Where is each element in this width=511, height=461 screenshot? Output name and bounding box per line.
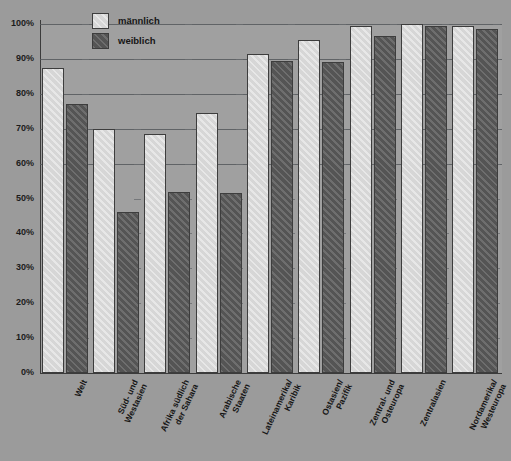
bar-male — [452, 26, 474, 373]
x-axis-tick-label: ArabischeStaaten — [217, 378, 252, 424]
legend-label-male: männlich — [118, 15, 160, 26]
gridline-tick — [339, 59, 346, 60]
bar-male — [247, 54, 269, 373]
gridline-tick — [236, 129, 243, 130]
bar-female — [117, 212, 139, 373]
x-axis-tick-label: Zentralasien — [418, 378, 448, 428]
y-axis-tick-label: 70% — [0, 124, 34, 133]
legend-swatch-male-icon — [92, 13, 109, 29]
bar-male — [93, 129, 115, 373]
x-axis-tick-label: Ostasien/Pazifik — [320, 378, 354, 421]
bar-female — [322, 62, 344, 373]
gridline-tick — [339, 24, 346, 25]
bar-female — [168, 192, 190, 373]
gridline-tick — [236, 94, 243, 95]
y-axis-tick-label: 80% — [0, 89, 34, 98]
y-axis-tick-label: 0% — [0, 368, 34, 377]
y-axis-tick-label: 100% — [0, 19, 34, 28]
gridline-tick — [134, 59, 141, 60]
y-axis-tick-label: 90% — [0, 54, 34, 63]
gridline-tick — [134, 94, 141, 95]
bar-female — [476, 29, 498, 373]
gridline-tick — [185, 59, 192, 60]
x-axis-tick-label: Afrika südlichder Sahara — [158, 378, 200, 437]
gridline-tick — [288, 24, 295, 25]
bar-female — [220, 193, 242, 373]
gridline-tick — [236, 164, 243, 165]
y-axis-tick-label: 30% — [0, 263, 34, 272]
x-axis-tick-label: Süd- undWestasien — [113, 378, 149, 424]
gridline — [40, 24, 502, 25]
bar-male — [42, 68, 64, 373]
bar-female — [271, 61, 293, 373]
gridline-tick — [236, 24, 243, 25]
bar-female — [66, 104, 88, 373]
x-axis-tick-label: Lateinamerika/Karibik — [260, 378, 303, 440]
bar-male — [401, 24, 423, 373]
legend-label-female: weiblich — [118, 35, 155, 46]
y-axis-tick-label: 10% — [0, 333, 34, 342]
gridline-tick — [82, 59, 89, 60]
gridline-tick — [442, 24, 449, 25]
y-axis-tick-label: 50% — [0, 194, 34, 203]
bar-chart: 100%90%80%70%60%50%40%30%20%10%0% männli… — [0, 0, 511, 461]
gridline-tick — [390, 24, 397, 25]
x-axis-tick-label-line: Zentralasien — [418, 378, 448, 428]
x-axis-tick-label: Welt — [72, 378, 89, 398]
gridline-tick — [185, 129, 192, 130]
x-axis-tick-label-line: Welt — [72, 378, 89, 398]
gridline-tick — [185, 24, 192, 25]
legend-swatch-female-icon — [92, 33, 109, 49]
bar-female — [425, 26, 447, 373]
gridline-tick — [493, 24, 500, 25]
gridline-tick — [82, 94, 89, 95]
bar-male — [298, 40, 320, 373]
gridline-tick — [185, 94, 192, 95]
bar-male — [196, 113, 218, 373]
x-axis-line — [40, 373, 502, 374]
gridline-tick — [288, 59, 295, 60]
y-axis-tick-label: 60% — [0, 159, 34, 168]
bar-male — [350, 26, 372, 373]
gridline-tick — [82, 24, 89, 25]
y-axis-tick-label: 20% — [0, 298, 34, 307]
y-axis-tick-label: 40% — [0, 228, 34, 237]
x-axis-tick-label: Nordamerika/Westeuropa — [467, 378, 508, 436]
gridline-tick — [134, 199, 141, 200]
gridline-tick — [134, 129, 141, 130]
x-axis-labels: WeltSüd- undWestasienAfrika südlichder S… — [0, 378, 511, 461]
gridline-tick — [185, 164, 192, 165]
bar-female — [374, 36, 396, 373]
gridline-tick — [236, 59, 243, 60]
bar-male — [144, 134, 166, 373]
gridline-tick — [134, 164, 141, 165]
y-axis-line — [40, 20, 41, 373]
x-axis-tick-label: Zentral- undOsteuropa — [367, 378, 406, 431]
